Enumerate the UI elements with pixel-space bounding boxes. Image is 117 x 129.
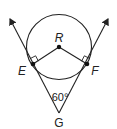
radius-rf [59, 47, 87, 64]
label-f: F [91, 64, 99, 78]
label-r: R [55, 31, 64, 45]
label-e: E [18, 64, 27, 78]
label-g: G [54, 116, 63, 129]
point-f [85, 62, 90, 67]
geometry-diagram: R E F G 60° [0, 0, 117, 129]
angle-label-g: 60° [52, 91, 69, 103]
point-e [31, 62, 36, 67]
point-r [57, 45, 61, 49]
radius-re [33, 47, 59, 64]
